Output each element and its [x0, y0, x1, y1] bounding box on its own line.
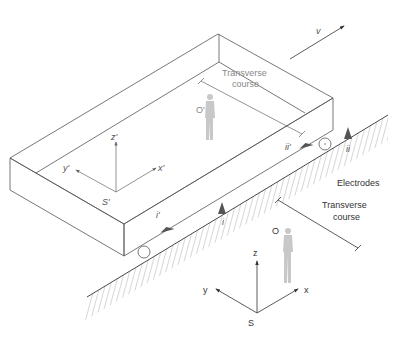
moving-transverse-label-1: Transverse [222, 68, 267, 78]
ground-origin-label: S [248, 318, 254, 328]
ground-y-axis-label: y [203, 285, 208, 295]
ground-observer-label: O [272, 226, 279, 236]
ground-transverse-label-1: Transverse [322, 200, 367, 210]
moving-x-axis-label: x' [157, 163, 165, 173]
velocity-label: v [316, 26, 321, 36]
svg-text:i': i' [156, 210, 160, 220]
svg-text:ii': ii' [285, 142, 291, 152]
relativity-train-diagram: v z' y' x' S' Transverse cou [0, 0, 400, 342]
moving-electrode-i: i' [156, 210, 175, 236]
moving-origin-label: S' [102, 197, 110, 207]
person-icon [205, 94, 215, 140]
ground-x-axis-label: x [304, 285, 309, 295]
wheel-front [138, 246, 150, 258]
ground-z-axis-label: z [253, 248, 258, 258]
moving-frame-axes: z' y' x' S' [62, 132, 165, 207]
moving-z-axis-label: z' [110, 132, 118, 142]
ground-frame-axes: z y x S [203, 248, 309, 328]
moving-observer-label: O' [196, 105, 205, 115]
ground [82, 115, 388, 330]
ground-transverse-label-2: course [333, 212, 360, 222]
person-icon [283, 228, 293, 283]
velocity-arrow: v [290, 26, 344, 59]
moving-observer: O' [196, 94, 215, 140]
electrodes-label: Electrodes [337, 178, 380, 188]
moving-y-axis-label: y' [62, 163, 70, 173]
ground-observer: O [272, 226, 293, 283]
moving-transverse-label-2: course [232, 79, 259, 89]
